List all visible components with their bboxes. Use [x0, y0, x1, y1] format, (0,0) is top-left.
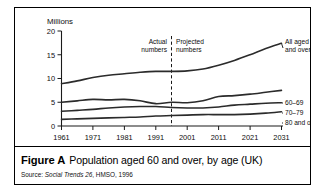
y-axis-title: Millions — [47, 17, 73, 26]
figure-title: Population aged 60 and over, by age (UK) — [69, 154, 262, 166]
source-prefix: Source: — [21, 171, 43, 178]
y-axis-ticks: 20 15 10 5 0 — [47, 27, 62, 131]
x-tick-label-1961: 1961 — [53, 133, 69, 142]
figure-frame: Millions 20 15 10 5 0 — [14, 7, 311, 185]
legend-leader-all60 — [282, 43, 284, 48]
y-tick-label-10: 10 — [47, 74, 55, 83]
y-tick-label-15: 15 — [47, 51, 55, 60]
x-axis-ticks: 1961 1971 1981 1991 2001 2011 2021 2031 — [53, 126, 289, 142]
caption-block: Figure APopulation aged 60 and over, by … — [15, 147, 310, 185]
legend-all-60: All aged 60 and over — [285, 38, 310, 53]
legend-label-60-69: 60–69 — [285, 99, 304, 106]
source-publication: Social Trends 26 — [45, 171, 92, 178]
y-tick-label-5: 5 — [51, 98, 55, 107]
y-tick-label-0: 0 — [51, 122, 55, 131]
x-tick-label-2021: 2021 — [242, 133, 258, 142]
x-tick-label-2011: 2011 — [211, 133, 227, 142]
legend-80-plus: 80 and over — [282, 119, 310, 126]
y-tick-label-20: 20 — [47, 27, 55, 36]
figure-label: Figure A — [21, 154, 65, 166]
annotation-projected: Projected numbers — [176, 38, 204, 53]
x-tick-label-2031: 2031 — [273, 133, 289, 142]
legend-60-69: 60–69 — [282, 99, 304, 106]
annotation-actual: Actual numbers — [141, 38, 167, 53]
legend-label-all60-line1: All aged 60 — [285, 38, 310, 46]
annotation-actual-line1: Actual — [149, 38, 168, 45]
annotation-projected-line2: numbers — [176, 46, 202, 53]
x-tick-label-1981: 1981 — [116, 133, 132, 142]
legend-label-all60-line2: and over — [285, 46, 310, 53]
legend-label-70-79: 70–79 — [285, 109, 304, 116]
x-tick-label-2001: 2001 — [179, 133, 195, 142]
caption-line: Figure APopulation aged 60 and over, by … — [21, 151, 304, 168]
chart-plot-area: Millions 20 15 10 5 0 — [15, 8, 310, 146]
population-line-chart: Millions 20 15 10 5 0 — [15, 8, 310, 146]
x-tick-label-1991: 1991 — [148, 133, 164, 142]
annotation-actual-line2: numbers — [141, 46, 167, 53]
legend-70-79: 70–79 — [282, 109, 304, 116]
source-line: Source: Social Trends 26, HMSO, 1996 — [21, 171, 304, 178]
series-line-80-and-over — [62, 112, 282, 120]
source-rest: , HMSO, 1996 — [92, 171, 133, 178]
legend-label-80-and-over: 80 and over — [285, 119, 310, 126]
x-tick-label-1971: 1971 — [85, 133, 101, 142]
annotation-projected-line1: Projected — [176, 38, 204, 46]
